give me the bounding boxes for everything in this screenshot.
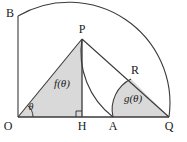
vertex-label-b: B <box>6 6 14 20</box>
arc-p-to-a <box>81 39 113 117</box>
region-label-f: f(θ) <box>54 77 70 90</box>
vertex-label-h: H <box>78 119 87 133</box>
angle-label-theta: θ <box>29 101 34 112</box>
vertex-label-p: P <box>79 22 86 36</box>
vertex-label-q: Q <box>165 119 174 133</box>
region-label-g: g(θ) <box>124 92 143 105</box>
geometry-svg: O B P H A Q R f(θ) g(θ) θ <box>0 0 187 142</box>
vertex-label-r: R <box>131 63 139 77</box>
geometry-figure: O B P H A Q R f(θ) g(θ) θ <box>0 0 187 142</box>
vertex-label-a: A <box>109 119 118 133</box>
vertex-label-o: O <box>4 119 13 133</box>
